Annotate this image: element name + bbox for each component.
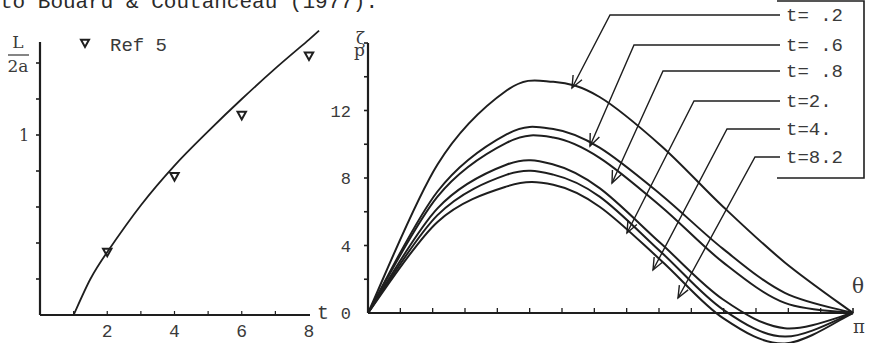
x-tick-label: 6 (236, 322, 247, 342)
legend-label: t= .2 (786, 5, 843, 27)
x-axis-label-theta: θ (852, 274, 864, 298)
y-tick-label: 8 (341, 170, 351, 189)
y-tick-label: 1 (19, 126, 29, 145)
left-chart-length-vs-time: 12468tL2aRef 5 (8, 31, 329, 342)
curve-t-2 (368, 160, 853, 328)
legend-label: t=2. (786, 91, 832, 113)
y-axis-label-numerator: L (12, 32, 23, 52)
legend-label-ref-5: Ref 5 (110, 35, 167, 57)
legend-label: t= .6 (786, 35, 843, 57)
plots-canvas: 12468tL2aRef 5 04812θπζpt= .2t= .6t= .8t… (0, 0, 871, 343)
x-tick-label: 2 (102, 322, 113, 342)
figure: to Bouard & Coutanceau (1977). 12468tL2a… (0, 0, 871, 343)
arrowhead-icon (678, 285, 688, 298)
x-tick-label: 4 (169, 322, 180, 342)
ref5-data-marker (238, 112, 246, 120)
ref5-data-marker (170, 173, 178, 181)
legend-marker-inverted-triangle-icon (81, 40, 89, 47)
curve-t-8 (368, 135, 853, 313)
y-axis-label-denominator: 2a (8, 56, 29, 76)
y-tick-label: 12 (331, 103, 351, 122)
legend-leader-line (627, 101, 780, 233)
figure-caption: to Bouard & Coutanceau (1977). (0, 0, 378, 14)
curve-t-4 (368, 171, 853, 337)
legend-leader-line (572, 15, 780, 88)
legend-leader-line (590, 45, 780, 146)
y-tick-label: 4 (341, 238, 351, 257)
legend-label: t=8.2 (786, 147, 843, 169)
legend-leader-line (612, 71, 780, 183)
legend-label: t=4. (786, 119, 832, 141)
x-axis-end-label-pi: π (853, 316, 865, 337)
ref5-data-marker (305, 52, 313, 60)
computed-curve (74, 31, 320, 315)
y-tick-label: 0 (341, 305, 351, 324)
right-chart-vorticity-vs-theta: 04812θπζpt= .2t= .6t= .8t=2.t=4.t=8.2 (331, 0, 865, 343)
x-axis-label: t (317, 302, 329, 325)
x-tick-label: 8 (304, 322, 315, 342)
legend-label: t= .8 (786, 61, 843, 83)
y-axis-label-subscript-p: p (354, 40, 365, 60)
